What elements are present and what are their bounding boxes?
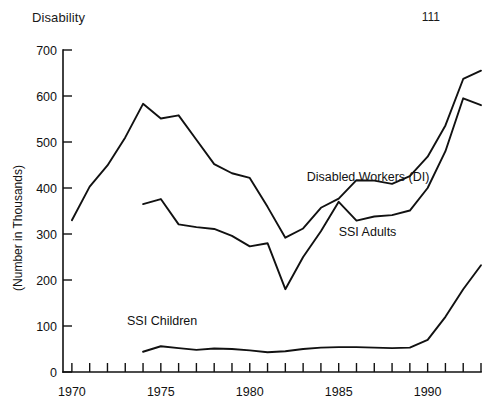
y-tick-label: 200 — [36, 274, 57, 288]
y-tick-label: 500 — [36, 136, 57, 150]
series-line-3 — [143, 265, 481, 352]
y-tick-label: 400 — [36, 182, 57, 196]
series-lines-group — [72, 71, 481, 353]
series-labels-group: Disabled Workers (DI)SSI AdultsSSI Child… — [127, 170, 429, 328]
x-tick-label: 1990 — [414, 385, 442, 399]
x-tick-label: 1975 — [147, 385, 175, 399]
disability-chart-figure: Disability 111 0100200300400500600700 (N… — [0, 0, 496, 408]
y-tick-label: 0 — [50, 366, 57, 380]
y-axis-ticks — [63, 50, 72, 372]
y-tick-label: 100 — [36, 320, 57, 334]
x-tick-label: 1970 — [58, 385, 86, 399]
x-axis-ticks — [72, 363, 481, 372]
series-line-1 — [72, 71, 481, 238]
y-axis-title: (Number in Thousands) — [11, 165, 25, 291]
y-axis-tick-labels: 0100200300400500600700 — [36, 44, 57, 380]
x-tick-label: 1980 — [236, 385, 264, 399]
x-tick-label: 1985 — [325, 385, 353, 399]
y-tick-label: 600 — [36, 90, 57, 104]
series-label-1: Disabled Workers (DI) — [307, 170, 430, 184]
line-chart-svg: 0100200300400500600700 (Number in Thousa… — [0, 0, 496, 408]
series-label-3: SSI Children — [127, 314, 197, 328]
x-axis: 19701975198019851990 — [58, 363, 481, 399]
series-label-2: SSI Adults — [339, 225, 397, 239]
y-tick-label: 300 — [36, 228, 57, 242]
series-line-2 — [143, 98, 481, 289]
x-axis-tick-labels: 19701975198019851990 — [58, 385, 442, 399]
y-tick-label: 700 — [36, 44, 57, 58]
y-axis: 0100200300400500600700 (Number in Thousa… — [11, 44, 72, 380]
